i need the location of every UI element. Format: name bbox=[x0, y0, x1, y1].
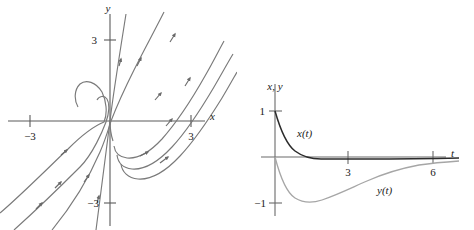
phase-y-axis-label: y bbox=[105, 2, 111, 14]
arrow-t2-b bbox=[36, 203, 42, 209]
phase-portrait-panel: y x −3 3 3 −3 bbox=[0, 0, 237, 230]
arrow-t3-a bbox=[84, 175, 89, 182]
figure-container: y x −3 3 3 −3 x, y t bbox=[0, 0, 474, 230]
time-ytick-label-pos1: 1 bbox=[260, 105, 266, 117]
phase-xtick-label-pos3: 3 bbox=[188, 130, 194, 142]
time-y-axis-label: x, y bbox=[266, 80, 282, 92]
phase-xtick-label-neg3: −3 bbox=[24, 130, 36, 142]
trajectory-6 bbox=[121, 72, 237, 179]
time-ttick-label-6: 6 bbox=[430, 166, 436, 178]
time-axes bbox=[261, 84, 446, 216]
time-t-axis-label: t bbox=[451, 147, 455, 159]
y-curve-label: y(t) bbox=[376, 184, 393, 197]
trajectory-5 bbox=[117, 54, 233, 169]
phase-x-axis-label: x bbox=[209, 110, 215, 122]
x-curve-label: x(t) bbox=[296, 127, 313, 140]
arrow-t4-a bbox=[140, 152, 148, 156]
time-ytick-label-neg1: −1 bbox=[254, 197, 266, 209]
arrow-t4-b bbox=[185, 78, 190, 86]
arrow-t6-b bbox=[170, 34, 175, 42]
arrow-t1-a bbox=[61, 150, 67, 155]
y-of-t-curve bbox=[275, 157, 459, 202]
phase-ytick-label-neg3: −3 bbox=[87, 197, 99, 209]
time-series-svg: x, y t 1 −1 3 6 x(t) y(t) bbox=[237, 0, 474, 230]
trajectory-4 bbox=[114, 41, 224, 158]
time-ttick-label-3: 3 bbox=[345, 166, 351, 178]
arrow-t5-b bbox=[166, 119, 172, 126]
phase-portrait-svg: y x −3 3 3 −3 bbox=[0, 0, 237, 230]
arrow-t6-a bbox=[155, 93, 161, 100]
time-series-panel: x, y t 1 −1 3 6 x(t) y(t) bbox=[237, 0, 474, 230]
phase-ytick-label-pos3: 3 bbox=[92, 34, 98, 46]
